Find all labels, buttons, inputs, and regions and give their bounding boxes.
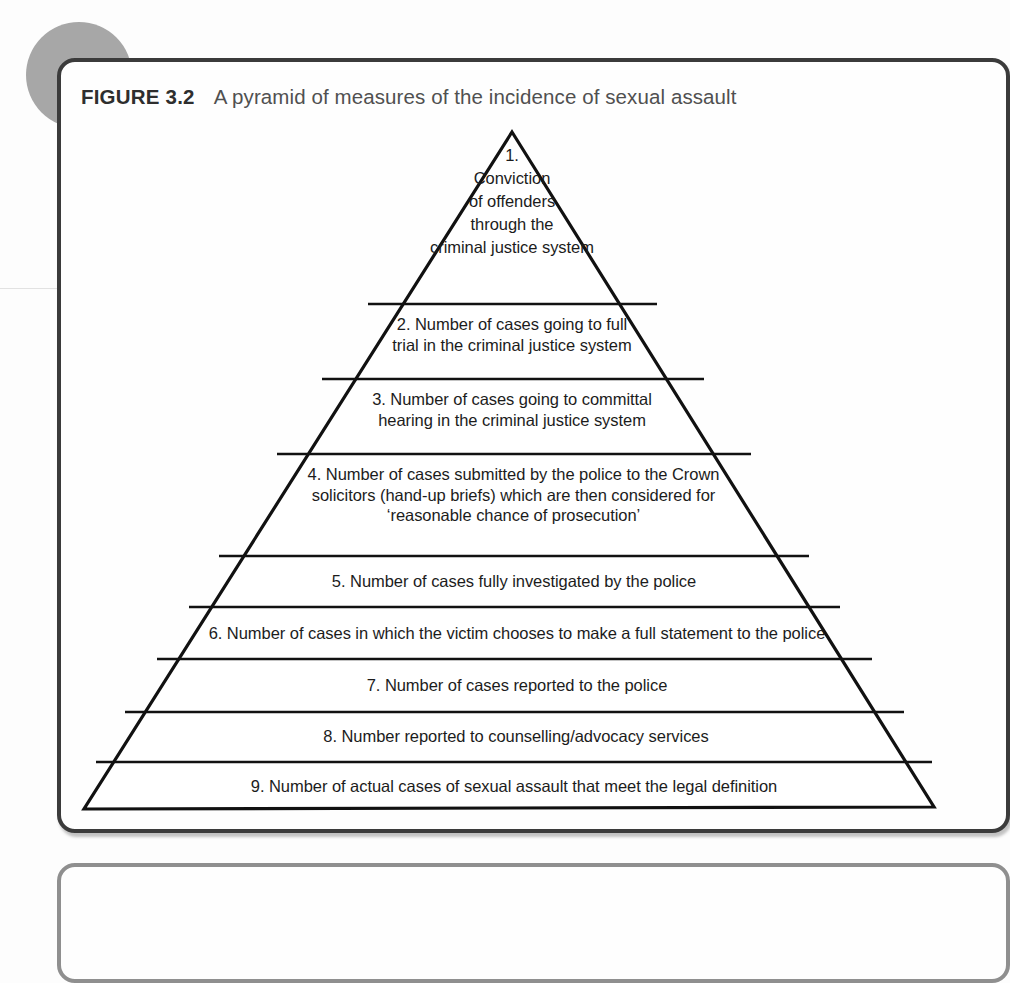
pyramid-tier-3: 3. Number of cases going to committal he… <box>307 389 717 430</box>
pyramid-tier-8-line-1: 8. Number reported to counselling/advoca… <box>106 726 926 747</box>
pyramid-tier-1: 1. Conviction of offenders through the c… <box>372 144 652 259</box>
pyramid-tier-4-line-3: ‘reasonable chance of prosecution’ <box>241 505 786 526</box>
pyramid-tier-4-line-1: 4. Number of cases submitted by the poli… <box>241 464 786 485</box>
pyramid-tier-5-line-1: 5. Number of cases fully investigated by… <box>204 571 824 592</box>
pyramid-tier-4-line-2: solicitors (hand-up briefs) which are th… <box>241 485 786 506</box>
pyramid-tier-1-line-5: criminal justice system <box>372 236 652 259</box>
pyramid-tier-6-line-1: 6. Number of cases in which the victim c… <box>167 623 867 644</box>
pyramid-tier-4: 4. Number of cases submitted by the poli… <box>241 464 786 526</box>
pyramid-tier-9: 9. Number of actual cases of sexual assa… <box>79 776 949 797</box>
pyramid-tier-3-line-1: 3. Number of cases going to committal <box>307 389 717 410</box>
figure-panel: FIGURE 3.2A pyramid of measures of the i… <box>57 58 1010 833</box>
next-figure-panel <box>57 863 1010 983</box>
pyramid-tier-3-line-2: hearing in the criminal justice system <box>307 410 717 431</box>
pyramid-tier-1-line-1: 1. <box>372 144 652 167</box>
pyramid-tier-1-line-2: Conviction <box>372 167 652 190</box>
pyramid-diagram: 1. Conviction of offenders through the c… <box>61 62 1006 829</box>
pyramid-tier-9-line-1: 9. Number of actual cases of sexual assa… <box>79 776 949 797</box>
pyramid-tier-2-line-1: 2. Number of cases going to full <box>337 314 687 335</box>
pyramid-tier-2-line-2: trial in the criminal justice system <box>337 335 687 356</box>
pyramid-tier-8: 8. Number reported to counselling/advoca… <box>106 726 926 747</box>
pyramid-tier-7: 7. Number of cases reported to the polic… <box>137 675 897 696</box>
pyramid-tier-1-line-4: through the <box>372 213 652 236</box>
pyramid-tier-2: 2. Number of cases going to full trial i… <box>337 314 687 355</box>
pyramid-tier-6: 6. Number of cases in which the victim c… <box>167 623 867 644</box>
pyramid-tier-7-line-1: 7. Number of cases reported to the polic… <box>137 675 897 696</box>
pyramid-tier-5: 5. Number of cases fully investigated by… <box>204 571 824 592</box>
pyramid-tier-1-line-3: of offenders <box>372 190 652 213</box>
